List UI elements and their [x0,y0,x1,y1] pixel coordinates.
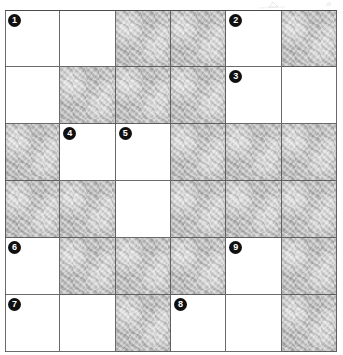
blocked-cell-r1c3 [116,10,171,67]
blocked-cell-r5c3 [116,238,171,295]
blocked-cell-r6c6 [282,295,337,352]
clue-number-4: 4 [63,127,76,140]
blocked-cell-r3c6 [282,124,337,181]
clue-number-5: 5 [119,127,132,140]
crossword-grid: 123456978 [5,10,337,352]
open-cell-r3c2[interactable]: 4 [60,124,115,181]
blocked-cell-r4c2 [60,181,115,238]
blocked-cell-r4c4 [171,181,226,238]
open-cell-r1c2[interactable] [60,10,115,67]
crossword-puzzle: 123456978 [0,0,343,355]
clue-number-3: 3 [229,70,242,83]
blocked-cell-r2c2 [60,67,115,124]
open-cell-r2c1[interactable] [5,67,60,124]
open-cell-r5c1[interactable]: 6 [5,238,60,295]
open-cell-r2c6[interactable] [282,67,337,124]
open-cell-r5c5[interactable]: 9 [226,238,281,295]
clue-number-7: 7 [8,298,21,311]
blocked-cell-r3c4 [171,124,226,181]
open-cell-r1c1[interactable]: 1 [5,10,60,67]
blocked-cell-r5c6 [282,238,337,295]
blocked-cell-r4c5 [226,181,281,238]
open-cell-r3c3[interactable]: 5 [116,124,171,181]
clue-number-6: 6 [8,241,21,254]
blocked-cell-r4c6 [282,181,337,238]
open-cell-r1c5[interactable]: 2 [226,10,281,67]
open-cell-r6c4[interactable]: 8 [171,295,226,352]
clue-number-2: 2 [229,14,242,27]
crossword-grid-wrapper: 123456978 [5,10,337,352]
blocked-cell-r1c4 [171,10,226,67]
blocked-cell-r3c1 [5,124,60,181]
blocked-cell-r4c1 [5,181,60,238]
blocked-cell-r6c3 [116,295,171,352]
open-cell-r4c3[interactable] [116,181,171,238]
blocked-cell-r2c4 [171,67,226,124]
blocked-cell-r5c4 [171,238,226,295]
open-cell-r6c2[interactable] [60,295,115,352]
blocked-cell-r3c5 [226,124,281,181]
open-cell-r6c1[interactable]: 7 [5,295,60,352]
clue-number-1: 1 [8,14,21,27]
blocked-cell-r2c3 [116,67,171,124]
open-cell-r6c5[interactable] [226,295,281,352]
blocked-cell-r1c6 [282,10,337,67]
blocked-cell-r5c2 [60,238,115,295]
scan-artifact [255,0,335,10]
clue-number-8: 8 [174,298,187,311]
open-cell-r2c5[interactable]: 3 [226,67,281,124]
clue-number-9: 9 [229,241,242,254]
